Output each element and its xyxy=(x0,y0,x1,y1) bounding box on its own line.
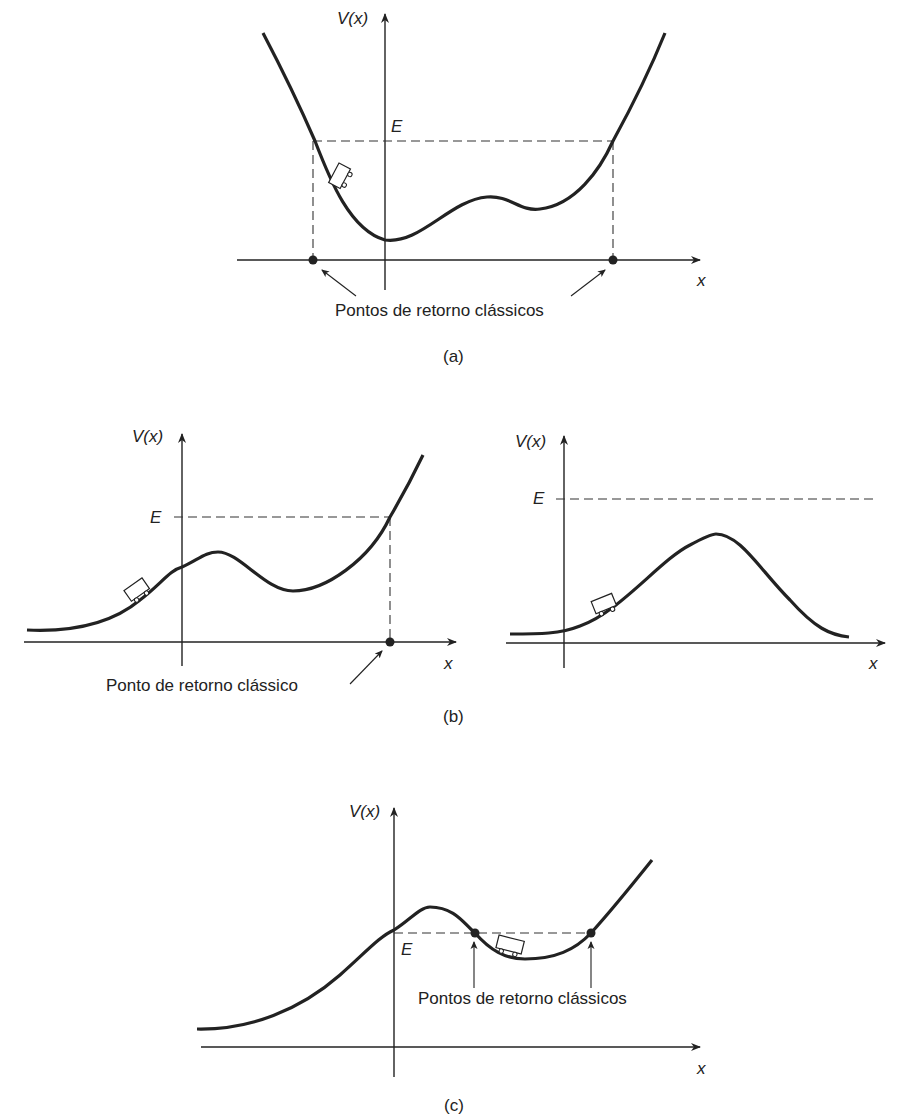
panel-b-right-energy-label: E xyxy=(533,490,544,507)
panel-b-left xyxy=(24,434,456,684)
panel-a-x-label: x xyxy=(697,272,706,289)
panel-c-x-label: x xyxy=(697,1060,706,1077)
turning-point-right xyxy=(587,929,596,938)
panel-b-caption: (b) xyxy=(443,708,464,725)
panel-b-left-energy-label: E xyxy=(150,509,161,526)
panel-b-left-x-label: x xyxy=(444,655,453,672)
cart-icon xyxy=(124,578,152,605)
turning-point-right xyxy=(609,256,618,265)
potential-energy-diagrams xyxy=(0,0,903,1117)
panel-c-energy-label: E xyxy=(401,941,412,958)
turning-point-left xyxy=(471,929,480,938)
cart-icon xyxy=(329,163,355,190)
panel-a xyxy=(237,14,700,296)
panel-a-energy-label: E xyxy=(391,118,402,135)
potential-curve xyxy=(263,33,665,240)
panel-b-right-y-label: V(x) xyxy=(515,433,546,450)
panel-a-annotation: Pontos de retorno clássicos xyxy=(335,302,544,319)
potential-curve xyxy=(510,534,849,637)
panel-b-right xyxy=(506,436,885,668)
turning-point xyxy=(386,638,395,647)
potential-curve xyxy=(27,455,423,630)
panel-c-annotation: Pontos de retorno clássicos xyxy=(418,990,627,1007)
panel-a-y-label: V(x) xyxy=(337,10,368,27)
panel-b-left-y-label: V(x) xyxy=(132,428,163,445)
panel-c-caption: (c) xyxy=(444,1097,464,1114)
panel-c xyxy=(197,808,700,1077)
panel-b-left-annotation: Ponto de retorno clássico xyxy=(106,677,298,694)
panel-b-right-x-label: x xyxy=(869,655,878,672)
turning-point-left xyxy=(309,256,318,265)
panel-c-y-label: V(x) xyxy=(349,803,380,820)
panel-a-caption: (a) xyxy=(443,348,464,365)
